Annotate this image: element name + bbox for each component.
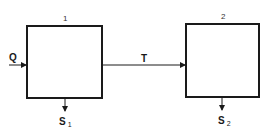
label-s1-main: S [59, 116, 66, 127]
label-s2-subscript: 2 [227, 120, 231, 127]
label-s2-main: S [218, 115, 225, 126]
label-s1: S1 [59, 117, 72, 128]
box-1-number: 1 [63, 15, 67, 23]
box-1 [27, 26, 102, 98]
diagram-canvas [0, 0, 270, 134]
box-2-number: 2 [221, 13, 225, 21]
label-t: T [141, 54, 147, 64]
label-q: Q [9, 53, 17, 63]
label-s1-subscript: 1 [68, 121, 72, 128]
label-s2: S2 [218, 116, 231, 127]
box-2 [186, 24, 259, 97]
